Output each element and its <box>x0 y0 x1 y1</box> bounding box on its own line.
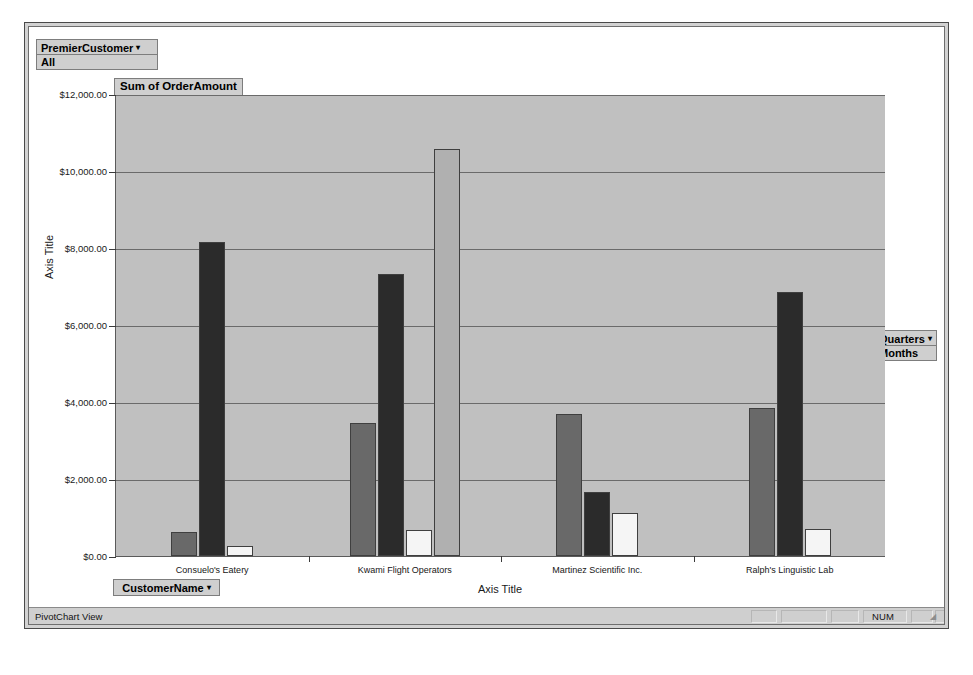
screenshot-root: PremierCustomer▾ All Quarters▾ Months Cu… <box>0 0 973 675</box>
chart-bar[interactable] <box>777 292 803 556</box>
y-axis-tick <box>109 326 116 327</box>
chart-bar[interactable] <box>612 513 638 556</box>
y-axis-tick-label: $10,000.00 <box>59 167 107 177</box>
x-axis-tick <box>694 556 695 562</box>
y-axis-tick-label: $6,000.00 <box>65 321 107 331</box>
chart-bar[interactable] <box>434 149 460 556</box>
status-pane <box>831 610 859 623</box>
status-pane <box>781 610 827 623</box>
y-axis-tick <box>109 95 116 96</box>
chart-bar[interactable] <box>171 532 197 556</box>
chart-value-field-button[interactable]: Sum of OrderAmount <box>114 78 243 96</box>
status-num-indicator: NUM <box>872 611 894 622</box>
x-axis-tick <box>501 556 502 562</box>
gridline <box>116 403 885 404</box>
y-axis-tick <box>109 249 116 250</box>
chart-bar[interactable] <box>378 274 404 556</box>
chart-bar[interactable] <box>350 423 376 556</box>
gridline <box>116 172 885 173</box>
chart-bar[interactable] <box>556 414 582 556</box>
y-axis-tick <box>109 403 116 404</box>
chart-bar[interactable] <box>406 530 432 556</box>
pivotchart-window: PremierCustomer▾ All Quarters▾ Months Cu… <box>24 22 949 629</box>
x-axis-category-label: Martinez Scientific Inc. <box>552 565 642 576</box>
y-axis-tick <box>109 172 116 173</box>
x-axis-category-label: Ralph's Linguistic Lab <box>746 565 833 576</box>
status-pane <box>751 610 777 623</box>
chart-bar[interactable] <box>199 242 225 556</box>
gridline <box>116 326 885 327</box>
chart-bar[interactable] <box>227 546 253 556</box>
chart-area: Sum of OrderAmount Axis Title $12,000.00… <box>29 27 944 624</box>
y-axis-tick-label: $4,000.00 <box>65 398 107 408</box>
x-axis-tick <box>309 556 310 562</box>
y-axis-tick-label: $2,000.00 <box>65 475 107 485</box>
chart-bar[interactable] <box>584 492 610 556</box>
gridline <box>116 95 885 96</box>
y-axis-tick <box>109 480 116 481</box>
y-axis-title[interactable]: Axis Title <box>43 235 55 279</box>
status-bar: PivotChart View NUM ◢ <box>29 607 944 624</box>
resize-grip-icon[interactable]: ◢ <box>930 612 940 622</box>
gridline <box>116 249 885 250</box>
x-axis-title[interactable]: Axis Title <box>115 583 885 595</box>
y-axis-tick-label: $12,000.00 <box>59 90 107 100</box>
chart-bar[interactable] <box>805 529 831 556</box>
y-axis-tick-label: $8,000.00 <box>65 244 107 254</box>
x-axis-category-label: Kwami Flight Operators <box>358 565 452 576</box>
status-bar-text: PivotChart View <box>35 611 102 622</box>
x-axis-category-label: Consuelo's Eatery <box>176 565 249 576</box>
chart-bar[interactable] <box>749 408 775 556</box>
plot-area: $12,000.00$10,000.00$8,000.00$6,000.00$4… <box>115 95 885 557</box>
y-axis-tick-label: $0.00 <box>83 552 107 562</box>
pivotchart-canvas: PremierCustomer▾ All Quarters▾ Months Cu… <box>28 26 945 625</box>
y-axis-tick <box>109 557 116 558</box>
